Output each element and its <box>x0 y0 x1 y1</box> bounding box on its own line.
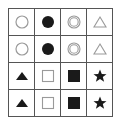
square-filled-icon <box>66 68 82 84</box>
star-filled-icon <box>92 68 108 84</box>
circle-outline-icon <box>14 41 30 57</box>
shape-grid <box>8 8 113 117</box>
square-filled-icon <box>66 95 82 111</box>
circle-filled-icon <box>40 14 56 30</box>
triangle-outline-icon <box>92 41 108 57</box>
grid-cell <box>35 63 61 90</box>
grid-cell <box>61 36 87 63</box>
grid-cell <box>87 63 113 90</box>
grid-cell <box>9 63 35 90</box>
double-circle-icon <box>66 41 82 57</box>
circle-outline-icon <box>14 14 30 30</box>
triangle-filled-icon <box>14 68 30 84</box>
grid-cell <box>61 90 87 117</box>
grid-cell <box>9 90 35 117</box>
grid-cell <box>61 63 87 90</box>
grid-cell <box>35 36 61 63</box>
grid-cell <box>61 9 87 36</box>
square-outline-icon <box>40 68 56 84</box>
star-filled-icon <box>92 95 108 111</box>
triangle-outline-icon <box>92 14 108 30</box>
grid-cell <box>35 9 61 36</box>
grid-cell <box>9 9 35 36</box>
grid-cell <box>9 36 35 63</box>
triangle-filled-icon <box>14 95 30 111</box>
square-outline-icon <box>40 95 56 111</box>
grid-cell <box>35 90 61 117</box>
double-circle-icon <box>66 14 82 30</box>
grid-cell <box>87 90 113 117</box>
grid-cell <box>87 36 113 63</box>
grid-cell <box>87 9 113 36</box>
circle-filled-icon <box>40 41 56 57</box>
